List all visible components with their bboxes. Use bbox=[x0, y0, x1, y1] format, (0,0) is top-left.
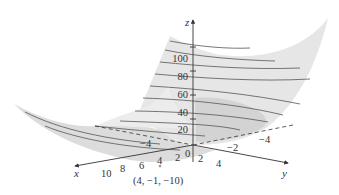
y-tick-2: 2 bbox=[198, 153, 203, 164]
x-tick-6: 6 bbox=[139, 160, 144, 171]
x-tick-10: 10 bbox=[101, 168, 112, 179]
y-axis-label: y bbox=[281, 167, 287, 179]
x-axis-label: x bbox=[73, 167, 79, 179]
z-tick-60: 60 bbox=[178, 89, 189, 100]
z-tick-20: 20 bbox=[178, 124, 189, 135]
dashed-tick-neg2: −2 bbox=[227, 142, 238, 153]
x-tick-2: 2 bbox=[175, 152, 180, 163]
dashed-tick-neg4-left: −4 bbox=[140, 138, 152, 149]
y-tick-4: 4 bbox=[216, 158, 222, 169]
origin-label: 0 bbox=[185, 148, 190, 159]
x-tick-8: 8 bbox=[120, 163, 125, 174]
z-axis-label: z bbox=[184, 16, 190, 28]
dashed-tick-neg4-right: −4 bbox=[259, 134, 271, 145]
minimum-point-label: (4, −1, −10) bbox=[133, 175, 184, 187]
minimum-point-marker bbox=[159, 165, 162, 168]
z-tick-40: 40 bbox=[178, 107, 189, 118]
paraboloid-plot: z x y 100 80 60 40 20 0 10 8 6 4 2 2 4 −… bbox=[0, 0, 339, 195]
z-tick-100: 100 bbox=[172, 53, 188, 64]
z-tick-80: 80 bbox=[178, 71, 189, 82]
y-axis bbox=[193, 145, 288, 163]
x-tick-4: 4 bbox=[157, 155, 163, 166]
